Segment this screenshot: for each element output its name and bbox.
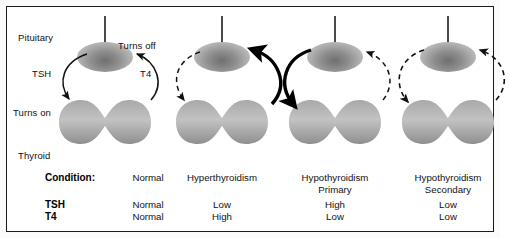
tsh-hypothyroidism-primary: High bbox=[325, 199, 345, 210]
tsh-hyperthyroidism: Low bbox=[213, 199, 231, 210]
condition-hypothyroidism-secondary: Hypothyroidism bbox=[415, 172, 482, 183]
pituitary-gland bbox=[420, 42, 476, 72]
pituitary-gland bbox=[307, 42, 363, 72]
pituitary-gland bbox=[194, 42, 250, 72]
thyroid-gland bbox=[58, 99, 152, 145]
t4-hyperthyroidism: High bbox=[212, 211, 232, 222]
row-label-t4: T4 bbox=[45, 211, 57, 222]
condition-hypothyroidism-primary: Hypothyroidism bbox=[302, 172, 369, 183]
subcondition-hypothyroidism-secondary: Secondary bbox=[425, 184, 471, 195]
subcondition-hypothyroidism-primary: Primary bbox=[318, 184, 351, 195]
label-pituitary: Pituitary bbox=[18, 32, 53, 43]
t4-hypothyroidism-primary: Low bbox=[326, 211, 344, 222]
label-t4-arrow: T4 bbox=[140, 68, 151, 79]
label-turns-off: Turns off bbox=[118, 40, 156, 51]
row-label-tsh: TSH bbox=[45, 199, 65, 210]
label-thyroid: Thyroid bbox=[18, 150, 50, 161]
label-tsh-arrow: TSH bbox=[32, 68, 51, 79]
t4-normal: Normal bbox=[132, 211, 163, 222]
table-row-t4: T4 Normal High Low Low bbox=[0, 211, 500, 224]
table-row-subcondition: Primary Secondary bbox=[0, 184, 500, 197]
diagram-area: Pituitary Thyroid Turns on Turns off TSH… bbox=[0, 0, 500, 168]
condition-normal: Normal bbox=[132, 172, 163, 183]
panel-hypothyroidism-secondary bbox=[368, 0, 510, 168]
row-label-condition: Condition: bbox=[45, 172, 95, 183]
condition-hyperthyroidism: Hyperthyroidism bbox=[187, 172, 257, 183]
thyroid-gland bbox=[401, 99, 495, 145]
tsh-normal: Normal bbox=[132, 199, 163, 210]
t4-hypothyroidism-secondary: Low bbox=[439, 211, 457, 222]
tsh-hypothyroidism-secondary: Low bbox=[439, 199, 457, 210]
label-turns-on: Turns on bbox=[13, 107, 51, 118]
summary-table: Condition: Normal Hyperthyroidism Hypoth… bbox=[0, 170, 500, 232]
